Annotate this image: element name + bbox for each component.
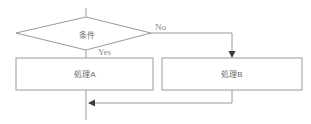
no-label: No xyxy=(155,22,166,32)
process-b-label: 処理B xyxy=(221,69,242,79)
merge-line xyxy=(95,90,232,103)
no-branch-arrowhead-icon xyxy=(229,51,236,58)
yes-label: Yes xyxy=(98,47,112,57)
condition-label: 条件 xyxy=(79,30,95,40)
flowchart-diagram: 条件 Yes No 処理A 処理B xyxy=(0,0,311,124)
merge-arrowhead-icon xyxy=(88,100,95,107)
process-a-label: 処理A xyxy=(74,69,96,79)
flowchart-canvas: 条件 Yes No 処理A 処理B xyxy=(0,0,311,124)
no-branch-line xyxy=(151,33,232,56)
